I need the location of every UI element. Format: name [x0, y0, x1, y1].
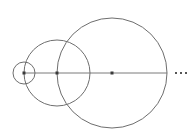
- ellipsis-dot-3: [185, 72, 187, 74]
- circle-chain-diagram: ···: [0, 0, 194, 140]
- ellipsis-dot-2: [180, 72, 182, 74]
- center-point-2: [56, 72, 59, 75]
- continuation-ellipsis: ···: [175, 72, 187, 74]
- center-point-3: [111, 72, 114, 75]
- ellipsis-dot-1: [175, 72, 177, 74]
- center-point-1: [23, 72, 26, 75]
